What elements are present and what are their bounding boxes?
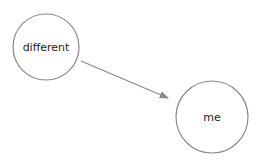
- node-label-different: different: [23, 41, 70, 54]
- node-label-me: me: [203, 111, 220, 124]
- diagram-canvas: [0, 0, 263, 166]
- edge-arrow[interactable]: [81, 61, 168, 98]
